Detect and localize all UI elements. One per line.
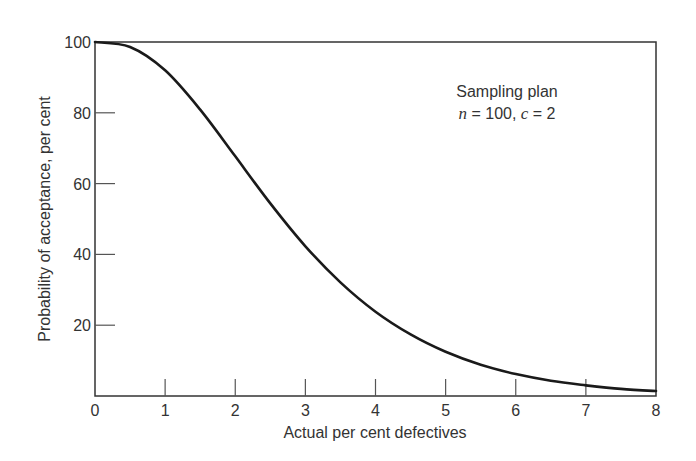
annotation-n-symbol: n <box>458 104 467 123</box>
y-tick-label: 100 <box>64 34 91 51</box>
x-tick-label: 7 <box>581 402 590 419</box>
y-tick-label: 60 <box>73 176 91 193</box>
oc-curve-line <box>95 42 656 391</box>
x-tick-label: 4 <box>371 402 380 419</box>
oc-curve-chart: 012345678 20406080100 Actual per cent de… <box>0 0 696 461</box>
y-tick-label: 40 <box>73 246 91 263</box>
x-tick-label: 0 <box>91 402 100 419</box>
annotation-c-value: = 2 <box>533 105 556 122</box>
y-tick-label: 80 <box>73 105 91 122</box>
annotation-c-symbol: c <box>521 104 529 123</box>
x-axis-title: Actual per cent defectives <box>283 424 466 441</box>
plot-frame <box>95 42 656 396</box>
x-tick-label: 1 <box>161 402 170 419</box>
y-axis-title: Probability of acceptance, per cent <box>36 96 53 342</box>
y-axis-ticks: 20406080100 <box>64 34 115 334</box>
x-tick-label: 3 <box>301 402 310 419</box>
x-tick-label: 5 <box>441 402 450 419</box>
x-tick-label: 6 <box>511 402 520 419</box>
annotation-n-value: = 100, <box>471 105 516 122</box>
y-tick-label: 20 <box>73 317 91 334</box>
annotation-params: n = 100, c = 2 <box>458 104 555 123</box>
annotation-title: Sampling plan <box>456 83 557 100</box>
x-tick-label: 8 <box>652 402 661 419</box>
x-tick-label: 2 <box>231 402 240 419</box>
